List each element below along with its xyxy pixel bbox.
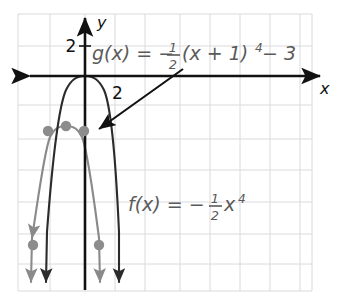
y-tick-label-2: 2 (66, 36, 77, 56)
x-axis-name: x (319, 79, 330, 98)
point-marker (28, 240, 38, 250)
svg-text:g(x) = −: g(x) = − (92, 42, 174, 64)
g-label-tail: (x + 1) (182, 42, 248, 64)
f-label-tail: x (223, 193, 236, 215)
f-label-exponent: 4 (238, 192, 246, 206)
curve-f-left-tail (46, 232, 47, 282)
point-marker (79, 126, 89, 136)
f-fraction-denominator: 2 (211, 208, 219, 223)
point-marker (61, 121, 71, 131)
point-marker (43, 126, 53, 136)
graph-figure: 2 y x 2 g(x) = − 1 2 (x + 1) 4 − 3 f(x) … (0, 0, 340, 300)
f-fraction-numerator: 1 (211, 191, 219, 206)
g-label-constant: − 3 (262, 42, 296, 64)
g-fraction-numerator: 1 (169, 40, 177, 55)
f-label-head: f(x) = − (128, 193, 205, 215)
point-marker (94, 240, 104, 250)
g-label-head: g(x) = − (92, 42, 174, 64)
g-fraction-denominator: 2 (169, 57, 177, 72)
y-axis-name: y (96, 13, 107, 32)
shift-label: 2 (112, 83, 123, 103)
